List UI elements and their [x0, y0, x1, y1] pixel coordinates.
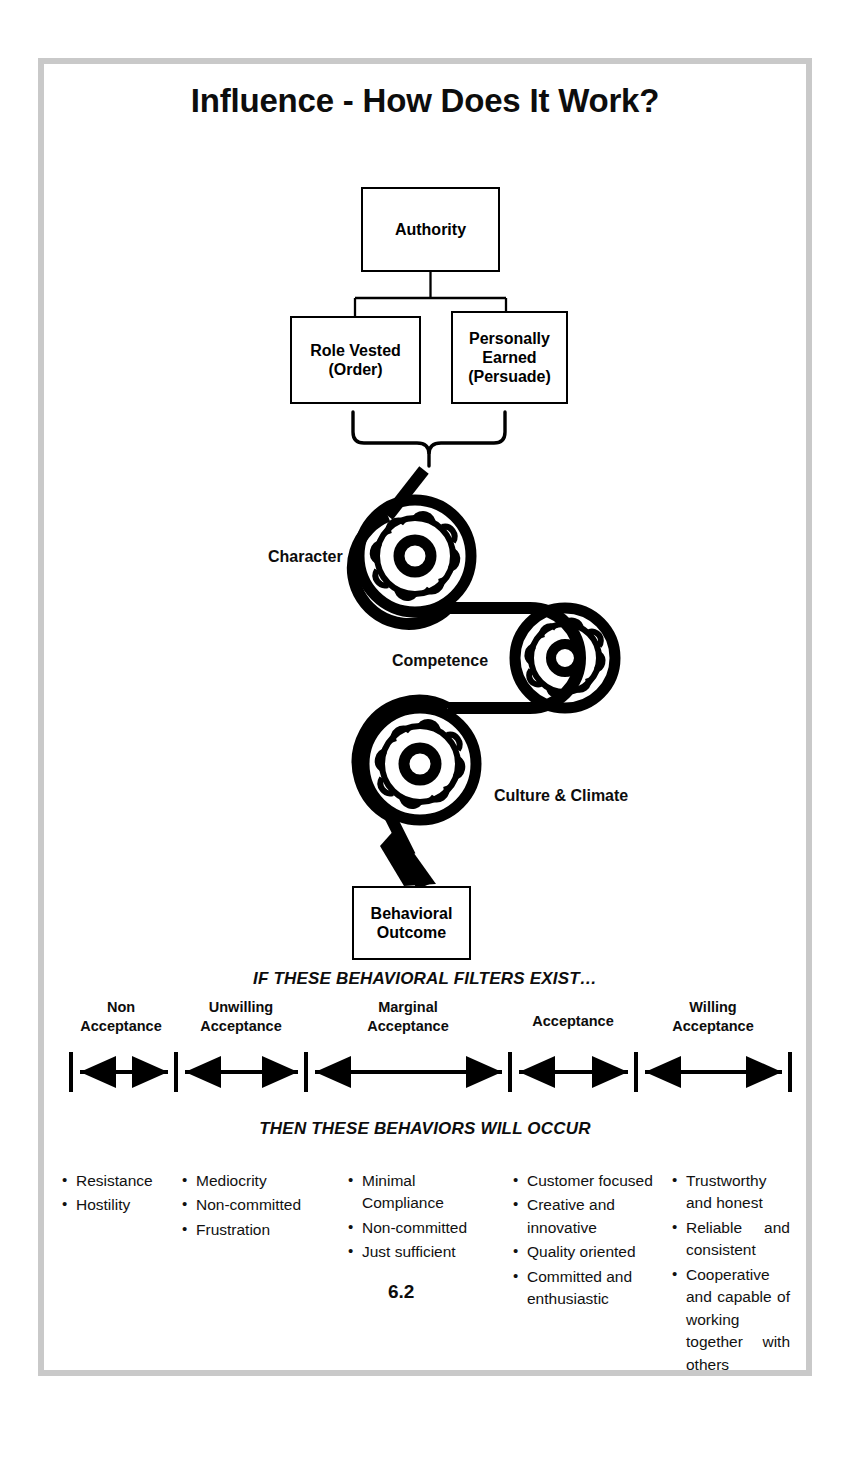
list-item: Creative and innovative: [513, 1194, 658, 1239]
bullet-list-acceptance: Customer focused Creative and innovative…: [513, 1170, 658, 1311]
box-personally-earned-label: Personally Earned (Persuade): [468, 329, 551, 387]
box-behavioral-outcome: Behavioral Outcome: [352, 886, 471, 960]
list-item: Non-committed: [348, 1217, 488, 1239]
scale-header-unwilling-acceptance: Unwilling Acceptance: [176, 998, 306, 1036]
list-item: Mediocrity: [182, 1170, 332, 1192]
scale-header-marginal-acceptance: Marginal Acceptance: [343, 998, 473, 1036]
box-authority: Authority: [361, 187, 500, 272]
slide-page: Influence - How Does It Work?: [0, 0, 851, 1471]
box-role-vested: Role Vested (Order): [290, 316, 421, 404]
scale-header-non-acceptance: Non Acceptance: [56, 998, 186, 1036]
bullet-column-willing-acceptance: Trustworthy and honest Reliable and cons…: [672, 1170, 790, 1378]
box-behavioral-outcome-label: Behavioral Outcome: [371, 904, 453, 942]
banner-behaviors: THEN THESE BEHAVIORS WILL OCCUR: [48, 1119, 802, 1139]
bullet-list-non-acceptance: Resistance Hostility: [62, 1170, 182, 1217]
scale-header-acceptance: Acceptance: [508, 1012, 638, 1031]
bullet-column-acceptance: Customer focused Creative and innovative…: [513, 1170, 658, 1313]
box-role-vested-label: Role Vested (Order): [310, 341, 401, 379]
list-item: Committed and enthusiastic: [513, 1266, 658, 1311]
page-number: 6.2: [388, 1281, 414, 1303]
bullet-list-unwilling-acceptance: Mediocrity Non-committed Frustration: [182, 1170, 332, 1241]
list-item: Customer focused: [513, 1170, 658, 1192]
pulley-label-competence: Competence: [392, 652, 488, 670]
pulley-label-culture-climate: Culture & Climate: [494, 787, 628, 805]
bullet-column-unwilling-acceptance: Mediocrity Non-committed Frustration: [182, 1170, 332, 1243]
list-item: Minimal Compliance: [348, 1170, 488, 1215]
list-item: Frustration: [182, 1219, 332, 1241]
list-item: Quality oriented: [513, 1241, 658, 1263]
box-personally-earned: Personally Earned (Persuade): [451, 311, 568, 404]
box-authority-label: Authority: [395, 220, 466, 239]
list-item: Trustworthy and honest: [672, 1170, 790, 1215]
bullet-column-marginal-acceptance: Minimal Compliance Non-committed Just su…: [348, 1170, 488, 1266]
list-item: Hostility: [62, 1194, 182, 1216]
scale-header-willing-acceptance: Willing Acceptance: [648, 998, 778, 1036]
bullet-list-willing-acceptance: Trustworthy and honest Reliable and cons…: [672, 1170, 790, 1376]
pulley-label-character: Character: [268, 548, 343, 566]
list-item: Non-committed: [182, 1194, 332, 1216]
list-item: Just sufficient: [348, 1241, 488, 1263]
banner-filters: IF THESE BEHAVIORAL FILTERS EXIST…: [48, 969, 802, 989]
bullet-list-marginal-acceptance: Minimal Compliance Non-committed Just su…: [348, 1170, 488, 1264]
list-item: Reliable and consistent: [672, 1217, 790, 1262]
page-title: Influence - How Does It Work?: [48, 82, 802, 120]
list-item: Resistance: [62, 1170, 182, 1192]
bullet-column-non-acceptance: Resistance Hostility: [62, 1170, 182, 1219]
list-item: Cooperative and capable of working toget…: [672, 1264, 790, 1376]
